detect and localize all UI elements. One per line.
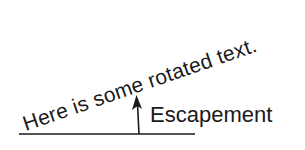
escapement-arrow-shaft bbox=[138, 104, 140, 134]
escapement-diagram: Here is some rotated text. Escapement bbox=[0, 0, 305, 150]
escapement-label: Escapement bbox=[150, 104, 272, 126]
